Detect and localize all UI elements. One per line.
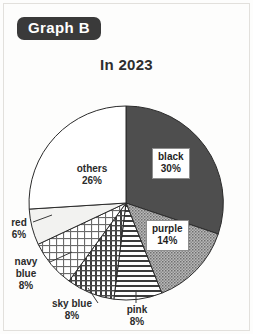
slice-label-sky-blue: sky blue 8% [41, 298, 103, 322]
slice-label-sky-blue-value: 8% [41, 310, 103, 322]
slice-label-red-name: red [3, 217, 35, 229]
graph-b-pie-chart-page: Graph B In 2023 [0, 0, 253, 334]
slice-label-red: red 6% [3, 217, 35, 241]
slice-label-black-name: black [158, 151, 184, 163]
slice-label-purple-name: purple [152, 223, 183, 235]
slice-label-pink: pink 8% [117, 304, 157, 328]
slice-label-purple-value: 14% [152, 235, 183, 247]
slice-label-others-name: others [60, 163, 124, 175]
slice-label-purple: purple 14% [146, 220, 189, 251]
pie-chart-area: black 30% purple 14% others 26% red 6% n… [0, 0, 253, 334]
slice-label-navy-blue-name-line1: navy [4, 256, 48, 268]
slice-label-others: others 26% [60, 163, 124, 187]
slice-label-sky-blue-name: sky blue [41, 298, 103, 310]
slice-label-pink-value: 8% [117, 316, 157, 328]
slice-label-red-value: 6% [3, 229, 35, 241]
slice-label-navy-blue: navy blue 8% [4, 256, 48, 292]
slice-label-navy-blue-value: 8% [4, 280, 48, 292]
pie-slice-others [29, 106, 126, 209]
slice-label-black: black 30% [152, 148, 190, 179]
slice-label-black-value: 30% [158, 163, 184, 175]
slice-label-navy-blue-name-line2: blue [4, 268, 48, 280]
slice-label-pink-name: pink [117, 304, 157, 316]
slice-label-others-value: 26% [60, 175, 124, 187]
